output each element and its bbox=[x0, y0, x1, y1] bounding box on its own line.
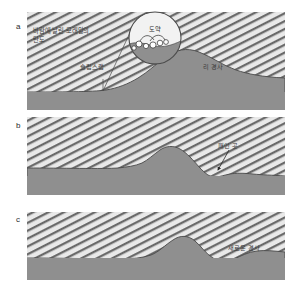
saltation-inset: 도약 bbox=[129, 12, 181, 64]
new-slope-label: 새로운 경사 bbox=[228, 244, 260, 252]
scour-pit-label: 패인 곳 bbox=[218, 142, 238, 150]
panel-letter-b: b bbox=[16, 121, 21, 130]
panel-b-substrate bbox=[27, 176, 285, 195]
lee-slope-label: 리 경사 bbox=[203, 63, 223, 71]
panel-letter-a: a bbox=[16, 22, 21, 31]
inset-label: 도약 bbox=[149, 25, 161, 33]
slip-face-label: 슬립스랩 bbox=[80, 63, 104, 70]
panel-letter-c: c bbox=[16, 215, 20, 224]
panel-b: b 패인 곳 bbox=[16, 117, 285, 195]
saltation-trajectory-label: 바람에 날린 모래알의 탄도 bbox=[33, 27, 89, 44]
panel-c: c 새로운 경사 bbox=[16, 212, 285, 280]
panel-a-substrate bbox=[27, 92, 285, 110]
panel-c-substrate bbox=[27, 258, 285, 280]
